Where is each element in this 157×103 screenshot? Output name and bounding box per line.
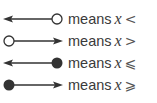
greater-than-symbol: > <box>125 33 137 49</box>
means-text: means <box>68 11 112 27</box>
less-or-equal-symbol: ⩽ <box>125 55 137 71</box>
legend-label: meansx⩾ <box>68 76 136 94</box>
legend-row-less-than: meansx< <box>0 9 157 29</box>
variable-x: x <box>115 10 122 27</box>
means-text: means <box>68 77 112 93</box>
left-arrow-open-circle-icon <box>0 9 66 29</box>
greater-or-equal-symbol: ⩾ <box>125 77 137 93</box>
legend-row-greater-than: meansx> <box>0 31 157 51</box>
less-than-symbol: < <box>125 11 137 27</box>
right-arrow-open-circle-icon <box>0 31 66 51</box>
legend-label: meansx⩽ <box>68 54 136 72</box>
left-arrow-closed-circle-icon <box>0 53 66 73</box>
legend-label: meansx> <box>68 32 136 50</box>
means-text: means <box>68 33 112 49</box>
variable-x: x <box>115 32 122 49</box>
variable-x: x <box>115 76 122 93</box>
legend-row-less-or-equal: meansx⩽ <box>0 53 157 73</box>
right-arrow-closed-circle-icon <box>0 75 66 95</box>
legend-row-greater-or-equal: meansx⩾ <box>0 75 157 95</box>
means-text: means <box>68 55 112 71</box>
variable-x: x <box>115 54 122 71</box>
legend-label: meansx< <box>68 10 136 28</box>
